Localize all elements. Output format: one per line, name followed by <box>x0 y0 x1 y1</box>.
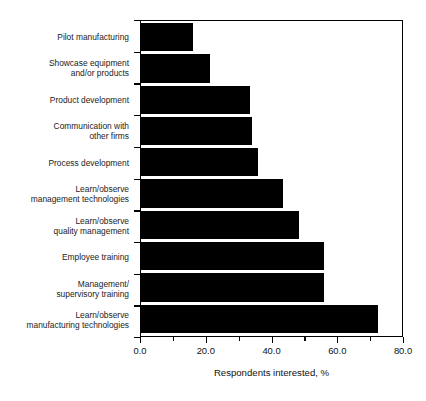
bar-row <box>141 304 402 335</box>
bar-series <box>141 21 402 336</box>
category-tick <box>134 305 141 306</box>
category-tick <box>134 179 141 180</box>
category-axis-labels: Pilot manufacturingShowcase equipment an… <box>0 20 134 337</box>
category-label: Learn/observe management technologies <box>0 179 134 211</box>
plot-area <box>140 20 403 337</box>
category-label: Process development <box>0 147 134 179</box>
category-label: Communication with other firms <box>0 116 134 148</box>
x-major-tick <box>337 337 338 343</box>
category-label: Showcase equipment and/or products <box>0 53 134 85</box>
bar <box>141 179 283 207</box>
bar-row <box>141 116 402 147</box>
x-axis-title: Respondents interested, % <box>140 367 403 378</box>
category-tick <box>134 147 141 148</box>
bar <box>141 23 193 51</box>
category-tick <box>134 210 141 211</box>
bar-row <box>141 210 402 241</box>
category-label: Employee training <box>0 242 134 274</box>
bar-row <box>141 147 402 178</box>
bar <box>141 305 378 333</box>
bar-row <box>141 241 402 272</box>
bar-chart: Pilot manufacturingShowcase equipment an… <box>0 0 426 401</box>
x-minor-tick <box>173 337 174 341</box>
category-tick <box>134 115 141 116</box>
bar <box>141 86 250 114</box>
category-tick <box>134 83 141 84</box>
bar-row <box>141 178 402 209</box>
bar <box>141 54 210 82</box>
x-minor-tick <box>370 337 371 341</box>
x-major-tick <box>272 337 273 343</box>
category-tick <box>134 20 141 21</box>
bar <box>141 148 258 176</box>
category-tick <box>134 242 141 243</box>
bar-row <box>141 85 402 116</box>
bar <box>141 242 324 270</box>
category-tick <box>134 52 141 53</box>
bar <box>141 273 324 301</box>
x-tick-label: 20.0 <box>197 345 215 356</box>
x-minor-tick <box>304 337 305 341</box>
category-tick <box>134 274 141 275</box>
x-tick-label: 80.0 <box>394 345 412 356</box>
x-major-tick <box>140 337 141 343</box>
x-tick-label: 0.0 <box>133 345 146 356</box>
x-major-tick <box>206 337 207 343</box>
category-label: Management/ supervisory training <box>0 273 134 305</box>
x-tick-label: 40.0 <box>262 345 280 356</box>
x-tick-label: 60.0 <box>328 345 346 356</box>
category-label: Learn/observe manufacturing technologies <box>0 305 134 337</box>
category-label: Product development <box>0 84 134 116</box>
bar <box>141 211 299 239</box>
bar <box>141 117 252 145</box>
category-label: Learn/observe quality management <box>0 210 134 242</box>
bar-row <box>141 22 402 53</box>
x-minor-tick <box>239 337 240 341</box>
x-major-tick <box>403 337 404 343</box>
bar-row <box>141 272 402 303</box>
bar-row <box>141 53 402 84</box>
category-label: Pilot manufacturing <box>0 21 134 53</box>
